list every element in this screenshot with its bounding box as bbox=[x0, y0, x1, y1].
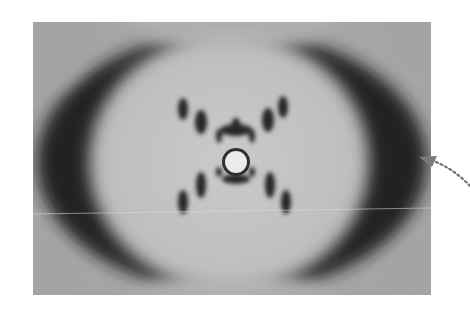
diffraction-pattern bbox=[33, 22, 431, 295]
diffraction-photo bbox=[33, 22, 431, 295]
